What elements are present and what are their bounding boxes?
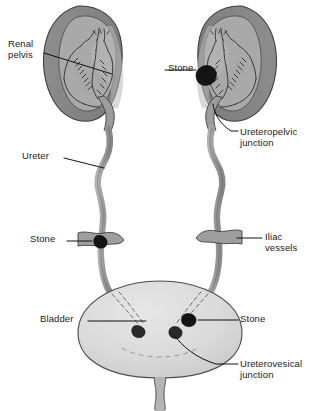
urinary-tract-illustration (0, 0, 320, 411)
stone-bladder-right-uvj (181, 313, 196, 326)
urinary-bladder (78, 281, 242, 378)
label-ureteropelvic-junction: Ureteropelvicjunction (240, 126, 297, 148)
label-stone-ureter: Stone (30, 234, 55, 245)
urinary-tract-figure: Renalpelvis Stone Ureteropelvicjunction … (0, 0, 320, 411)
label-stone-bladder: Stone (240, 314, 265, 325)
left-ureter (98, 128, 112, 296)
label-bladder: Bladder (40, 314, 73, 325)
right-kidney (196, 6, 276, 131)
label-renal-pelvis: Renalpelvis (8, 38, 33, 60)
right-ureter (208, 128, 222, 296)
label-iliac-vessels: Iliacvessels (265, 231, 297, 253)
label-stone-kidney: Stone (168, 63, 193, 74)
left-kidney (44, 6, 124, 131)
stone-right-kidney-pelvis (196, 66, 216, 86)
leader-ureter (64, 158, 104, 168)
iliac-vessel-crossing-right (196, 230, 242, 244)
label-ureterovesical-junction: Ureterovesicaljunction (240, 358, 302, 380)
label-ureter: Ureter (22, 151, 49, 162)
